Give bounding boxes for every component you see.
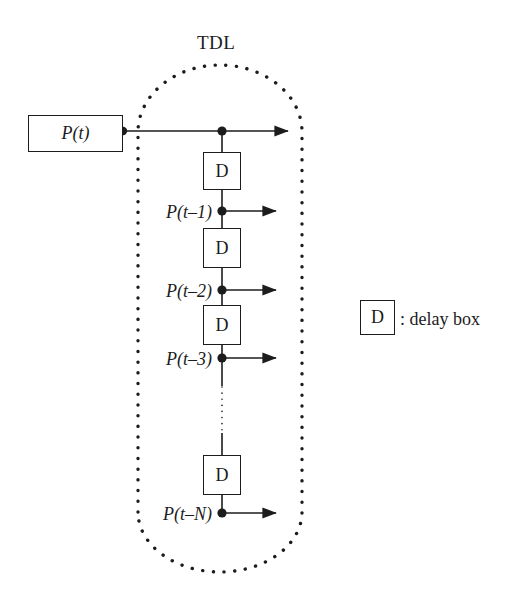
node-dot-pt-2 xyxy=(217,285,226,294)
node-dot-pt-3 xyxy=(217,353,226,362)
delay-box-n: D xyxy=(203,455,241,495)
tap-label-3: P(t–3) xyxy=(0,350,212,368)
node-dot-pt xyxy=(217,126,226,135)
diagram-canvas: TDL P(t) D D D D P(t–1) P(t–2) P(t–3) P(… xyxy=(0,0,522,599)
delay-box-letter: D xyxy=(216,315,229,336)
delay-box-letter: D xyxy=(216,161,229,182)
tdl-title: TDL xyxy=(197,33,235,52)
input-signal-box: P(t) xyxy=(28,115,123,152)
delay-box-letter: D xyxy=(216,465,229,486)
node-dot-pt-1 xyxy=(217,206,226,215)
input-signal-label: P(t) xyxy=(62,123,90,144)
node-dot-pt-n xyxy=(217,508,226,517)
delay-box-2: D xyxy=(203,228,241,268)
legend-symbol-letter: D xyxy=(371,307,384,328)
legend-description: : delay box xyxy=(400,310,480,328)
delay-box-3: D xyxy=(203,305,241,345)
delay-box-1: D xyxy=(203,152,241,190)
tap-label-1: P(t–1) xyxy=(0,203,212,221)
delay-box-letter: D xyxy=(216,238,229,259)
tap-label-n: P(t–N) xyxy=(0,505,212,523)
tap-label-2: P(t–2) xyxy=(0,282,212,300)
legend-delay-box-symbol: D xyxy=(360,300,395,335)
